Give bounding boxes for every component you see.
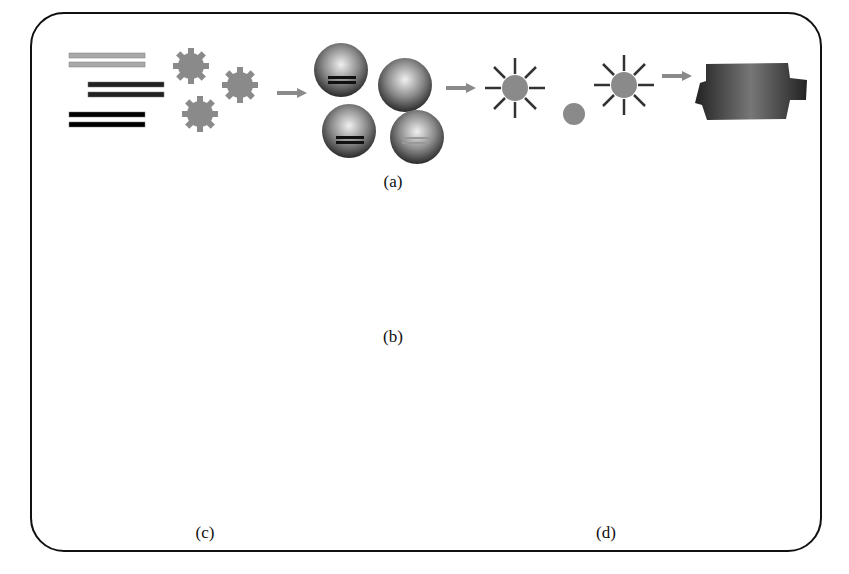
diagram-canvas [0,0,849,574]
arrow-icon [277,88,307,98]
amplified-bead-icon [594,55,654,115]
bead-icon [563,103,585,125]
panel-label-a: (a) [373,172,413,192]
arrow-icon [446,83,476,93]
emulsion-droplets [314,43,444,164]
amplified-bead-icon [485,58,545,118]
bead-icon [182,96,218,132]
arrow-icon [662,71,692,81]
panel-label-d: (d) [586,523,626,543]
picotiter-plate [695,63,807,120]
bead-icon [173,48,209,84]
panel-a [69,43,807,164]
panel-label-b: (b) [373,327,413,347]
panel-label-c: (c) [185,523,225,543]
bead-icon [222,67,258,103]
dna-fragments [69,53,164,127]
